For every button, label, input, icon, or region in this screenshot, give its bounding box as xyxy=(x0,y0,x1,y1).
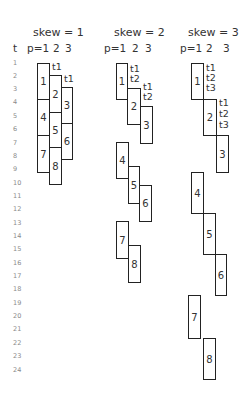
time-tick: 23 xyxy=(13,352,21,360)
time-tick: 9 xyxy=(13,165,17,173)
step-annotation: t3 xyxy=(219,120,229,130)
time-tick: 4 xyxy=(13,98,17,106)
time-tick: 7 xyxy=(13,139,17,147)
column-header-p1: p=1 xyxy=(27,42,49,54)
time-tick: 15 xyxy=(13,245,21,253)
task-box: 4 xyxy=(191,172,204,214)
column-header-p3: 3 xyxy=(145,42,152,54)
step-annotation: t1 xyxy=(52,62,62,72)
task-box: 2 xyxy=(203,99,217,136)
panel-title-skew-3: skew = 3 xyxy=(188,26,239,39)
task-box: 3 xyxy=(140,106,153,144)
task-box: 2 xyxy=(127,88,141,125)
step-annotation: t2 xyxy=(219,109,229,119)
column-header-p2: 2 xyxy=(53,42,60,54)
task-box: 6 xyxy=(139,185,152,222)
time-tick: 21 xyxy=(13,325,21,333)
column-header-p3: 3 xyxy=(65,42,72,54)
task-box: 6 xyxy=(61,123,73,160)
time-tick: 16 xyxy=(13,259,21,267)
time-tick: 2 xyxy=(13,72,17,80)
time-axis-label: t xyxy=(13,42,17,54)
time-tick: 10 xyxy=(13,179,21,187)
step-annotation: t3 xyxy=(206,83,216,93)
column-header-p1: p=1 xyxy=(180,42,202,54)
time-tick: 18 xyxy=(13,285,21,293)
time-tick: 3 xyxy=(13,85,17,93)
time-tick: 17 xyxy=(13,272,21,280)
time-tick: 14 xyxy=(13,232,21,240)
time-tick: 12 xyxy=(13,205,21,213)
time-tick: 5 xyxy=(13,112,17,120)
time-tick: 22 xyxy=(13,339,21,347)
step-annotation: t1 xyxy=(64,74,74,84)
task-box: 8 xyxy=(128,245,141,283)
task-box: 3 xyxy=(61,87,73,124)
task-box: 5 xyxy=(203,213,216,255)
column-header-p1: p=1 xyxy=(104,42,126,54)
time-tick: 13 xyxy=(13,219,21,227)
task-box: 8 xyxy=(49,147,62,185)
step-annotation: t1 xyxy=(219,98,229,108)
column-header-p2: 2 xyxy=(132,42,139,54)
step-annotation: t2 xyxy=(143,92,153,102)
task-box: 6 xyxy=(215,254,227,296)
task-box: 7 xyxy=(188,295,201,339)
time-tick: 24 xyxy=(13,366,21,374)
task-box: 1 xyxy=(191,63,204,100)
column-header-p3: 3 xyxy=(223,42,230,54)
task-box: 3 xyxy=(216,135,229,173)
time-tick: 1 xyxy=(13,59,17,67)
panel-title-skew-1: skew = 1 xyxy=(33,26,84,39)
time-tick: 6 xyxy=(13,125,17,133)
task-box: 8 xyxy=(203,338,216,380)
column-header-p2: 2 xyxy=(206,42,213,54)
time-tick: 11 xyxy=(13,192,21,200)
panel-title-skew-2: skew = 2 xyxy=(114,26,165,39)
time-tick: 20 xyxy=(13,312,21,320)
step-annotation: t2 xyxy=(130,74,140,84)
time-tick: 19 xyxy=(13,299,21,307)
time-tick: 8 xyxy=(13,152,17,160)
